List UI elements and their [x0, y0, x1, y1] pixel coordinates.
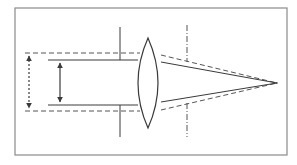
diagram-svg — [0, 0, 297, 165]
focal-point — [276, 82, 278, 84]
optics-diagram — [0, 0, 297, 165]
